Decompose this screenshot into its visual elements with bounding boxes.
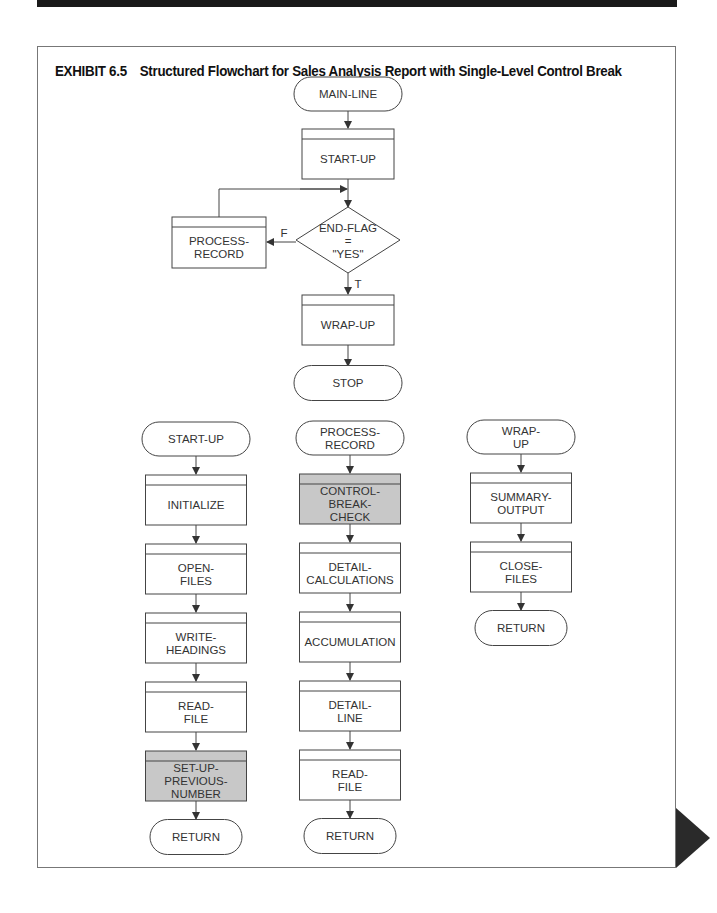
node-label: FILES [180,575,212,587]
node-label: END-FLAG [319,222,377,234]
node-label: RETURN [172,831,220,843]
node-label: SUMMARY- [490,491,552,503]
node-label: SET-UP- [173,762,219,774]
node-label: INITIALIZE [168,499,225,511]
node-label: START-UP [320,153,376,165]
node-label: MAIN-LINE [319,88,377,100]
node-label: HEADINGS [166,644,226,656]
node-label: CALCULATIONS [306,574,394,586]
node-label: RETURN [326,830,374,842]
node-label: READ- [332,768,368,780]
node-label: LINE [337,712,363,724]
page-turn-triangle-icon [676,808,710,868]
node-label: DETAIL- [328,561,371,573]
node-label: = [345,235,352,247]
node-label: OUTPUT [497,504,544,516]
node-label: PROCESS- [320,426,380,438]
node-label: FILE [184,713,209,725]
node-label: NUMBER [171,788,221,800]
node-label: CHECK [330,511,371,523]
node-label: READ- [178,700,214,712]
node-label: RECORD [325,439,375,451]
node-label: START-UP [168,433,224,445]
node-label: PREVIOUS- [164,775,227,787]
node-label: "YES" [332,248,363,260]
node-label: UP [513,438,529,450]
true-label: T [354,278,361,290]
node-label: FILE [338,781,363,793]
node-label: PROCESS- [189,235,249,247]
node-label: ACCUMULATION [304,636,395,648]
flowchart: MAIN-LINESTART-UPEND-FLAG="YES"FPROCESS-… [0,0,717,913]
node-label: DETAIL- [328,699,371,711]
node-label: WRAP-UP [321,319,376,331]
node-label: RECORD [194,248,244,260]
node-label: OPEN- [178,562,215,574]
node-label: CLOSE- [500,560,543,572]
node-label: WRAP- [502,425,541,437]
node-label: WRITE- [176,631,217,643]
node-label: CONTROL- [320,485,380,497]
node-label: RETURN [497,622,545,634]
node-label: STOP [332,377,363,389]
node-label: FILES [505,573,537,585]
false-label: F [280,227,287,239]
node-label: BREAK- [329,498,372,510]
